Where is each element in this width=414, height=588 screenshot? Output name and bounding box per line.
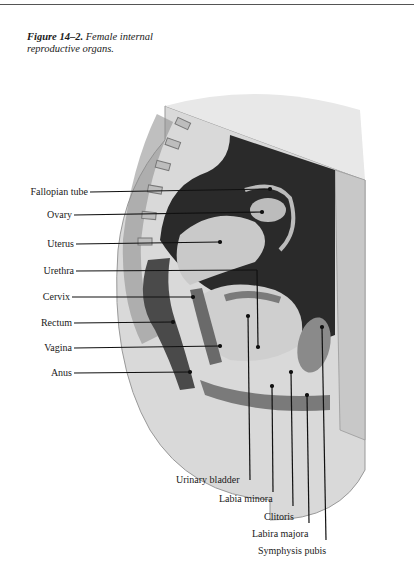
label-rectum: Rectum — [0, 317, 72, 329]
label-fallopian-tube: Fallopian tube — [0, 186, 88, 198]
label-uterus: Uterus — [0, 238, 74, 250]
label-labia-minora: Labia minora — [219, 493, 273, 505]
label-symphysis-pubis: Symphysis pubis — [258, 545, 326, 557]
label-ovary: Ovary — [0, 209, 72, 221]
label-clitoris: Clitoris — [264, 511, 294, 523]
label-urinary-bladder: Urinary bladder — [176, 474, 240, 486]
label-labira-majora: Labira majora — [252, 528, 308, 540]
label-anus: Anus — [0, 367, 72, 379]
label-cervix: Cervix — [0, 291, 70, 303]
label-vagina: Vagina — [0, 342, 72, 354]
label-urethra: Urethra — [0, 265, 74, 277]
